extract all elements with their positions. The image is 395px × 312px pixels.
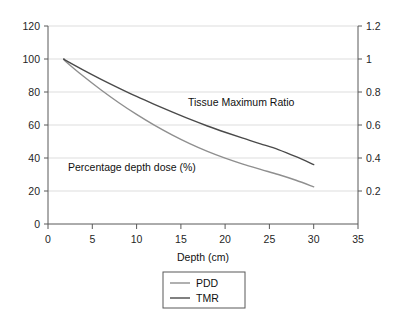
left-tick-label-100: 100 bbox=[22, 53, 40, 65]
left-tick-label-0: 0 bbox=[34, 218, 40, 230]
right-tick-label-1-0: 1 bbox=[366, 53, 372, 65]
chart-legend: PDD TMR bbox=[163, 272, 245, 308]
x-tick-label-10: 10 bbox=[131, 233, 143, 245]
x-tick-label-30: 30 bbox=[308, 233, 320, 245]
right-tick-label-0-8: 0.8 bbox=[366, 86, 381, 98]
right-tick-label-0-4: 0.4 bbox=[366, 152, 381, 164]
right-axis: 1.2 1 0.8 0.6 0.4 0.2 bbox=[358, 20, 381, 224]
left-tick-label-60: 60 bbox=[28, 119, 40, 131]
x-axis-title: Depth (cm) bbox=[177, 251, 229, 263]
x-tick-label-5: 5 bbox=[89, 233, 95, 245]
annotation-tissue-maximum-ratio: Tissue Maximum Ratio bbox=[188, 96, 295, 108]
right-tick-label-0-6: 0.6 bbox=[366, 119, 381, 131]
left-tick-label-120: 120 bbox=[22, 20, 40, 32]
legend-label-pdd: PDD bbox=[196, 277, 219, 289]
x-tick-label-20: 20 bbox=[219, 233, 231, 245]
left-tick-label-40: 40 bbox=[28, 152, 40, 164]
x-tick-label-0: 0 bbox=[45, 233, 51, 245]
annotation-percentage-depth-dose: Percentage depth dose (%) bbox=[68, 161, 196, 173]
depth-dose-line-chart: 120 100 80 60 40 20 0 1.2 1 0.8 0.6 0.4 … bbox=[0, 0, 395, 312]
legend-label-tmr: TMR bbox=[196, 292, 219, 304]
x-axis: 0 5 10 15 20 25 30 35 Depth (cm) bbox=[45, 224, 364, 263]
chart-figure: 120 100 80 60 40 20 0 1.2 1 0.8 0.6 0.4 … bbox=[0, 0, 395, 312]
x-tick-label-35: 35 bbox=[352, 233, 364, 245]
right-tick-label-0-2: 0.2 bbox=[366, 185, 381, 197]
left-tick-label-80: 80 bbox=[28, 86, 40, 98]
right-tick-label-1-2: 1.2 bbox=[366, 20, 381, 32]
x-tick-label-15: 15 bbox=[175, 233, 187, 245]
series-line-tmr bbox=[64, 59, 314, 165]
left-axis: 120 100 80 60 40 20 0 bbox=[22, 20, 48, 230]
x-tick-label-25: 25 bbox=[264, 233, 276, 245]
left-tick-label-20: 20 bbox=[28, 185, 40, 197]
